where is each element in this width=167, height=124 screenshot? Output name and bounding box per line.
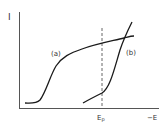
x-axis-label: −E [147,114,157,122]
curve-b-label: (b) [126,49,136,57]
ep-label-sub: p [101,116,104,123]
curve-a [25,36,134,103]
ep-label: Ep [97,114,105,123]
y-axis-label: I [8,12,11,22]
polarization-diagram: I (a) (b) Ep −E [0,0,167,124]
curve-b [83,22,132,103]
curve-a-label: (a) [51,50,61,58]
